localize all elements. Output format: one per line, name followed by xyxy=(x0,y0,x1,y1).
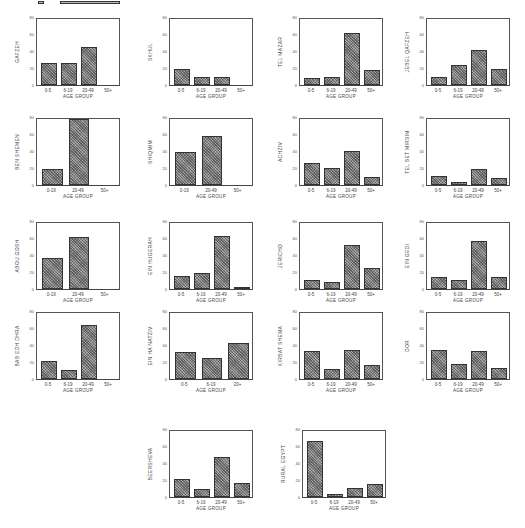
x-tick-label: 6-19 xyxy=(196,88,205,93)
x-tick-label: 6-19 xyxy=(326,292,335,297)
plot-area xyxy=(169,118,253,186)
plot-area xyxy=(36,312,120,380)
x-tick-label: 0-5 xyxy=(45,88,52,93)
y-tick-label: 80 xyxy=(412,116,424,120)
y-tick-label: 40 xyxy=(288,462,300,466)
x-tick-label: 0-5 xyxy=(178,88,185,93)
bar-6-19 xyxy=(324,77,340,85)
bar-0-5 xyxy=(431,350,447,379)
x-tick-label: 50+ xyxy=(494,88,502,93)
bar-series xyxy=(170,223,252,289)
x-tick-label: 0-5 xyxy=(178,500,185,505)
bar-series xyxy=(427,19,509,85)
bar-0-19 xyxy=(175,152,196,185)
y-axis-label-text: GAFZEH xyxy=(14,41,20,63)
bar-50+ xyxy=(364,268,380,289)
y-tick-label: 20 xyxy=(285,361,297,365)
plot-area xyxy=(169,430,253,498)
x-tick-label: 50+ xyxy=(101,292,109,297)
y-tick-label: 20 xyxy=(285,167,297,171)
bar-6-19 xyxy=(194,77,210,85)
y-tick-label: 40 xyxy=(155,344,167,348)
y-tick-label: 60 xyxy=(155,237,167,241)
x-axis-label: AGE GROUP xyxy=(299,194,383,199)
plot-area xyxy=(299,118,383,186)
x-tick-label: 20-49 xyxy=(345,88,357,93)
y-tick-label: 40 xyxy=(285,150,297,154)
x-axis-label: AGE GROUP xyxy=(36,388,120,393)
y-tick-label: 0 xyxy=(285,184,297,188)
y-axis-label-text: EIN GEDI xyxy=(404,244,410,268)
bar-6-19 xyxy=(451,182,467,185)
y-tick-label: 40 xyxy=(155,50,167,54)
y-tick-label: 0 xyxy=(155,184,167,188)
x-tick-label: 0-5 xyxy=(311,500,318,505)
y-axis-label-text: TEL BET MIRSIM xyxy=(404,130,410,174)
y-axis-label: BEERSHEVA xyxy=(145,430,155,498)
bar-20-49 xyxy=(471,241,487,289)
chart-achziv: ACHZIV0204060800-56-1920-4950+AGE GROUP xyxy=(275,112,395,212)
bar-0-5 xyxy=(41,63,57,85)
x-tick-label: 0-5 xyxy=(181,382,188,387)
bar-series xyxy=(37,313,119,379)
x-tick-label: 0-5 xyxy=(435,88,442,93)
bar-0-5 xyxy=(431,277,447,289)
bar-6-19 xyxy=(324,282,340,289)
y-tick-label: 60 xyxy=(288,445,300,449)
x-tick-label: 0-5 xyxy=(308,292,315,297)
bar-series xyxy=(170,431,252,497)
y-tick-label: 60 xyxy=(22,237,34,241)
bar-series xyxy=(300,313,382,379)
bar-6-19 xyxy=(202,358,223,379)
plot-area xyxy=(36,18,120,86)
y-axis-label-text: ACHZIV xyxy=(277,142,283,162)
x-tick-label: 0-19 xyxy=(180,188,189,193)
plot-area xyxy=(299,18,383,86)
y-tick-label: 0 xyxy=(155,84,167,88)
x-tick-label: 50+ xyxy=(237,88,245,93)
x-tick-label: 0-5 xyxy=(435,292,442,297)
y-tick-label: 0 xyxy=(22,288,34,292)
y-axis-label: TEL BET MIRSIM xyxy=(402,118,412,186)
y-tick-label: 80 xyxy=(412,220,424,224)
plot-area xyxy=(36,118,120,186)
x-tick-label: 50+ xyxy=(104,88,112,93)
x-tick-label: 20-49 xyxy=(472,292,484,297)
x-tick-label: 50+ xyxy=(101,188,109,193)
bar-6-19 xyxy=(324,168,340,185)
y-tick-label: 40 xyxy=(285,254,297,258)
x-tick-label: 6-19 xyxy=(453,292,462,297)
bar-20-49 xyxy=(202,136,223,186)
y-tick-label: 0 xyxy=(412,184,424,188)
chart-tel-bet-mirsim: TEL BET MIRSIM0204060800-56-1920-4950+AG… xyxy=(402,112,522,212)
x-axis-label: AGE GROUP xyxy=(36,194,120,199)
bar-0-5 xyxy=(174,69,190,86)
header-marker xyxy=(38,1,44,4)
y-tick-label: 20 xyxy=(155,479,167,483)
x-axis-label: AGE GROUP xyxy=(299,94,383,99)
bar-50+ xyxy=(364,70,380,85)
y-tick-label: 0 xyxy=(155,288,167,292)
y-tick-label: 20 xyxy=(155,271,167,275)
y-tick-label: 60 xyxy=(22,133,34,137)
bar-series xyxy=(427,119,509,185)
y-tick-label: 20 xyxy=(412,167,424,171)
y-axis-label-text: EIN HA NATZIV xyxy=(147,326,153,365)
chart-tel-mazar: TEL MAZAR0204060800-56-1920-4950+AGE GRO… xyxy=(275,12,395,112)
y-tick-label: 60 xyxy=(412,237,424,241)
y-axis-label-text: EIN HUGERAH xyxy=(147,237,153,275)
x-tick-label: 0-5 xyxy=(435,382,442,387)
bar-6-19 xyxy=(451,280,467,289)
y-tick-label: 80 xyxy=(285,116,297,120)
x-tick-label: 6-19 xyxy=(453,88,462,93)
y-tick-label: 80 xyxy=(22,16,34,20)
bar-20-49 xyxy=(214,457,230,497)
bar-20-49 xyxy=(214,236,230,289)
y-axis-label: GAFZEH xyxy=(12,18,22,86)
y-axis-label: ACHZIV xyxy=(275,118,285,186)
x-tick-label: 50+ xyxy=(367,382,375,387)
x-axis-label: AGE GROUP xyxy=(426,94,510,99)
chart-abou-gosh: ABOU GOSH0204060800-1920-4950+AGE GROUP xyxy=(12,216,132,316)
y-tick-label: 20 xyxy=(155,167,167,171)
bar-0-5 xyxy=(41,361,57,379)
